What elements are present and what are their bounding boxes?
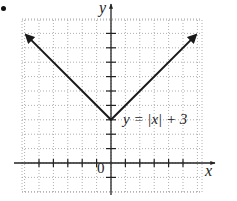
y-axis-label: y xyxy=(99,0,106,17)
origin-label: 0 xyxy=(97,160,105,177)
graph-figure: y x 0 y = |x| + 3 xyxy=(0,0,237,201)
equation-label: y = |x| + 3 xyxy=(123,111,187,128)
x-axis-label: x xyxy=(205,162,212,180)
bullet-marker xyxy=(1,6,6,11)
plot-area xyxy=(0,0,237,201)
